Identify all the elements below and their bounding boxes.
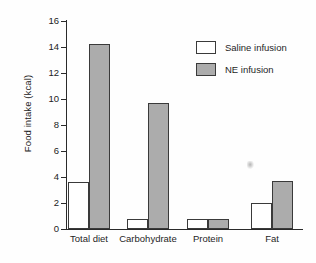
bar-fat-saline-infusion (251, 203, 272, 229)
y-tick-label: 12 (48, 68, 59, 78)
legend-item-ne-infusion: NE infusion (196, 63, 287, 76)
y-tick-label: 8 (54, 120, 59, 130)
x-label-fat: Fat (265, 233, 279, 244)
bar-protein-ne-infusion (208, 219, 229, 229)
bar-total-diet-saline-infusion (68, 182, 89, 229)
scan-artifact-speck (247, 161, 254, 169)
y-tick-mark (61, 151, 66, 152)
y-tick-mark (61, 73, 66, 74)
legend-label: Saline infusion (225, 42, 287, 53)
y-tick-mark (61, 99, 66, 100)
y-tick-mark (61, 125, 66, 126)
y-tick-mark (61, 203, 66, 204)
bar-fat-ne-infusion (272, 181, 293, 229)
y-tick-label: 6 (54, 146, 59, 156)
chart-figure: Food intake (kcal) 0246810121416 Total d… (0, 0, 316, 263)
bar-total-diet-ne-infusion (89, 44, 110, 229)
y-tick-mark (61, 47, 66, 48)
y-tick-mark (61, 177, 66, 178)
y-tick-label: 10 (48, 94, 59, 104)
legend-item-saline-infusion: Saline infusion (196, 41, 287, 54)
x-label-protein: Protein (193, 233, 223, 244)
y-tick-label: 0 (54, 224, 59, 234)
x-label-carbohydrate: Carbohydrate (119, 233, 177, 244)
bar-carbohydrate-ne-infusion (148, 103, 169, 229)
x-label-total-diet: Total diet (70, 233, 108, 244)
y-tick-label: 4 (54, 172, 59, 182)
bar-carbohydrate-saline-infusion (127, 219, 148, 229)
y-tick-mark (61, 21, 66, 22)
legend-swatch-open-square (196, 41, 216, 54)
legend-swatch-filled-gray-square (196, 63, 216, 76)
bar-protein-saline-infusion (187, 219, 208, 229)
y-tick-mark (61, 229, 66, 230)
y-tick-label: 14 (48, 42, 59, 52)
x-axis-line (66, 229, 303, 230)
y-tick-label: 16 (48, 16, 59, 26)
legend-label: NE infusion (225, 64, 274, 75)
y-tick-label: 2 (54, 198, 59, 208)
y-axis-title: Food intake (kcal) (22, 39, 33, 189)
chart-legend: Saline infusionNE infusion (196, 41, 287, 85)
